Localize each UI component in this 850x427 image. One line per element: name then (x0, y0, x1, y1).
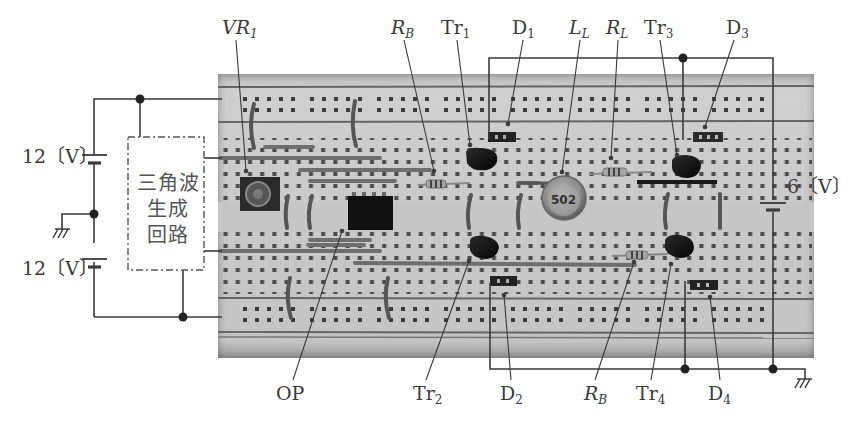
block-label-line-2: 生成 (130, 196, 206, 222)
label-op: OP (276, 384, 304, 403)
label-vr1: VR1 (222, 18, 258, 40)
label-d4: D4 (708, 384, 731, 406)
diode-d4 (690, 280, 718, 290)
right-6v-label: 6〔V〕 (787, 177, 850, 196)
ground-symbol-left (53, 229, 70, 238)
block-label-line-3: 回路 (130, 222, 206, 248)
diode-d1 (488, 132, 516, 142)
figure: 502 三角波 生成 回路 12〔V〕 12〔V〕 6〔V〕 VR1 RB Tr… (0, 0, 850, 427)
lower-12v-label: 12〔V〕 (22, 259, 98, 278)
transistor-tr3 (672, 155, 701, 178)
label-tr2: Tr2 (413, 384, 442, 406)
label-rb-bottom: RB (584, 384, 607, 406)
block-label-line-1: 三角波 (130, 170, 206, 196)
label-rl: RL (606, 18, 628, 40)
transistor-tr1 (466, 148, 497, 171)
label-d3: D3 (726, 18, 749, 40)
label-rb-top: RB (391, 18, 414, 40)
ground-symbol-right (795, 379, 812, 388)
top-power-rail (218, 86, 814, 122)
op-amp-ic (348, 192, 393, 230)
breadboard-details-and-wiring (0, 0, 850, 427)
inductor-marking: 502 (551, 193, 576, 207)
label-tr4: Tr4 (636, 384, 665, 406)
label-tr3: Tr3 (644, 18, 673, 40)
triangle-wave-block-label: 三角波 生成 回路 (130, 170, 206, 248)
label-d1: D1 (512, 18, 535, 40)
jumper-bar-right (637, 180, 717, 184)
potentiometer-vr1 (240, 177, 280, 211)
label-ll: LL (569, 18, 590, 40)
label-tr1: Tr1 (441, 18, 470, 40)
diode-d2 (490, 276, 517, 286)
label-d2: D2 (500, 384, 523, 406)
upper-12v-label: 12〔V〕 (22, 147, 98, 166)
bottom-power-rail (218, 298, 814, 338)
